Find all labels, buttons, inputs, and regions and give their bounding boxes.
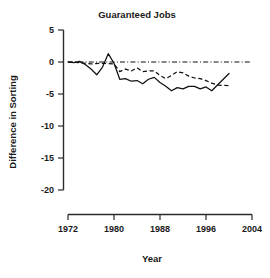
y-tick-label: -20 <box>41 185 54 195</box>
chart-title: Guaranteed Jobs <box>98 9 176 20</box>
chart-figure: Guaranteed Jobs Difference in Sorting Ye… <box>0 0 270 278</box>
x-tick-label: 1972 <box>58 224 78 234</box>
y-axis-title: Difference in Sorting <box>7 75 18 169</box>
x-tick-label: 1988 <box>150 224 170 234</box>
x-tick-label: 1980 <box>104 224 124 234</box>
x-tick-label: 1996 <box>196 224 216 234</box>
x-tick-label: 2004 <box>242 224 262 234</box>
line-chart: Guaranteed Jobs Difference in Sorting Ye… <box>0 0 270 278</box>
y-tick-label: -5 <box>46 89 54 99</box>
y-tick-label: -15 <box>41 153 54 163</box>
y-tick-label: 5 <box>49 25 54 35</box>
y-tick-label: 0 <box>49 57 54 67</box>
y-tick-label: -10 <box>41 121 54 131</box>
chart-background <box>0 0 270 278</box>
x-axis-title: Year <box>142 253 162 264</box>
